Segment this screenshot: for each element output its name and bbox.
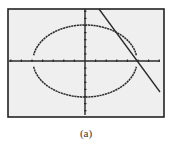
- calculator-graph-figure: (a): [0, 0, 172, 145]
- figure-caption: (a): [0, 127, 172, 139]
- graph-screen: [0, 0, 172, 125]
